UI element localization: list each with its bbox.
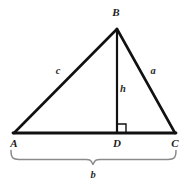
side-label-c: c [56, 65, 61, 76]
vertex-label-c: C [171, 137, 179, 149]
vertex-label-d: D [112, 137, 121, 149]
vertex-label-a: A [9, 137, 17, 149]
side-label-b: b [90, 169, 95, 180]
vertex-label-b: B [111, 6, 119, 18]
base-measure-brace [11, 151, 176, 165]
side-label-h: h [120, 83, 126, 94]
triangle-diagram-figure: B A D C c a h b [0, 0, 187, 192]
side-c-segment [14, 29, 117, 133]
side-label-a: a [150, 65, 155, 76]
triangle-diagram-canvas: B A D C c a h b [0, 0, 187, 192]
side-a-segment [117, 29, 175, 133]
